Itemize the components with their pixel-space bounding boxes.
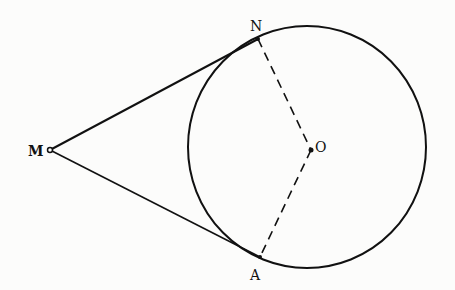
geometry-figure: M N O A: [0, 0, 455, 290]
label-m: M: [28, 143, 44, 159]
radius-oa: [260, 150, 311, 257]
radius-on: [258, 39, 311, 150]
diagram-canvas: M N O A: [0, 0, 455, 290]
point-m: [48, 148, 53, 153]
point-a: [258, 255, 262, 259]
tangent-ma: [50, 150, 260, 257]
label-a: A: [249, 267, 261, 283]
tangent-mn: [50, 39, 258, 150]
label-n: N: [250, 18, 262, 34]
circle-o: [188, 26, 426, 268]
label-o: O: [315, 139, 326, 155]
point-n: [256, 37, 260, 41]
point-o: [309, 148, 314, 153]
